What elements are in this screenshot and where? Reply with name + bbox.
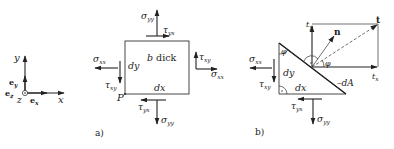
t-y-label: ty (306, 20, 313, 31)
thickness-label: bb dick dick (147, 52, 177, 63)
tau-yx-top-label: τyx (163, 25, 175, 37)
dx-label: dx (154, 82, 166, 93)
sigma-xx-right-label: σxx (211, 69, 225, 80)
tau-yx-label-b: τyx (291, 101, 303, 113)
sigma-xx-left-label: σxx (93, 54, 107, 65)
sigma-xx-label-b: σxx (249, 54, 263, 65)
coordinate-system: y ey ez z ex x (5, 52, 64, 106)
da-label: –dA (337, 78, 354, 88)
phi-top-label: φ (281, 47, 287, 56)
x-axis-label: x (58, 94, 64, 105)
sigma-yy-bottom-label: σyy (161, 115, 175, 127)
point-p-marker (124, 93, 126, 95)
tau-xy-right-label: τxy (199, 52, 211, 64)
traction-t-arrow (312, 25, 377, 67)
dy-label: dy (128, 60, 140, 71)
tau-xy-label-b: τxy (259, 79, 271, 91)
n-label: n (334, 27, 341, 37)
t-x-label: tx (372, 72, 379, 82)
right-angle-arc-bottom (279, 86, 287, 94)
right-angle-arc-normal (304, 56, 318, 61)
ey-label: ey (9, 77, 18, 89)
point-p-label: P (116, 92, 124, 103)
right-angle-dot-bottom (281, 90, 282, 91)
stress-diagram-canvas: y ey ez z ex x P bb dick dick dy dx σyy … (0, 0, 394, 149)
right-angle-dot-normal (310, 62, 311, 63)
y-axis-label: y (13, 52, 20, 63)
dx-label-b: dx (295, 82, 307, 93)
ex-label: ex (30, 95, 39, 106)
sigma-yy-top-label: σyy (141, 11, 155, 23)
diagram-a-rectangular-element: P bb dick dick dy dx σyy τyx σxx τxy τxy… (93, 10, 225, 138)
t-label: t (376, 15, 381, 25)
sigma-yy-label-b: σyy (317, 114, 331, 126)
dy-label-b: dy (283, 67, 295, 78)
phi-right-arc (322, 60, 324, 67)
diagram-b-triangular-element: φ φ ty tx n t –dA dy dx σxx τxy τyx σyy … (249, 15, 381, 137)
ez-dot-icon (24, 92, 26, 94)
tau-xy-left-label: τxy (105, 80, 117, 92)
ez-label: ez (5, 88, 14, 99)
phi-right-label: φ (325, 59, 331, 68)
caption-b: b) (255, 127, 264, 137)
z-axis-label: z (16, 95, 22, 105)
tau-yx-bottom-label: τyx (138, 102, 150, 114)
caption-a: a) (95, 128, 104, 138)
